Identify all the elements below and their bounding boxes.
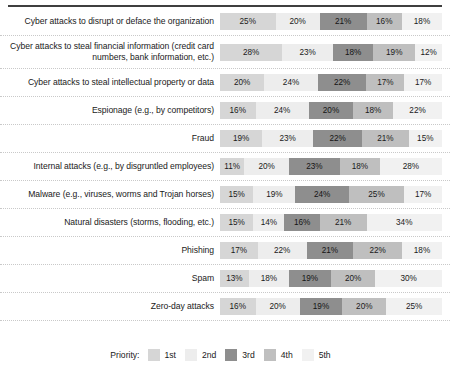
chart-legend: Priority: 1st2nd3rd4th5th [0, 349, 450, 361]
legend-item-5th[interactable]: 5th [302, 349, 331, 361]
bar-segment-4th: 21% [362, 130, 409, 147]
chart-row: Fraud19%23%22%21%15% [0, 125, 450, 153]
bar-segment-1st: 11% [220, 158, 244, 175]
bar-segment-1st: 15% [220, 214, 253, 231]
segment-value-label: 24% [274, 106, 290, 115]
bar-segment-3rd: 21% [307, 242, 354, 259]
bar-segment-4th: 19% [373, 44, 415, 61]
row-label: Zero-day attacks [8, 301, 220, 313]
bar-segment-3rd: 24% [295, 186, 348, 203]
chart-row: Internal attacks (e.g., by disgruntled e… [0, 153, 450, 181]
segment-value-label: 20% [345, 274, 361, 283]
row-label: Espionage (e.g., by competitors) [8, 105, 220, 117]
bar-segment-5th: 25% [386, 298, 442, 315]
bar-segment-5th: 17% [404, 74, 442, 91]
segment-value-label: 16% [376, 17, 392, 26]
bar-segment-2nd: 23% [282, 44, 333, 61]
bar-segment-3rd: 20% [309, 102, 353, 119]
segment-value-label: 20% [290, 17, 306, 26]
bar-segment-3rd: 19% [300, 298, 342, 315]
chart-row: Cyber attacks to disrupt or deface the o… [0, 8, 450, 36]
bar-segment-5th: 17% [404, 186, 442, 203]
bar-segment-3rd: 18% [333, 44, 373, 61]
segment-value-label: 22% [334, 78, 350, 87]
bar-segment-1st: 16% [220, 298, 256, 315]
legend-item-3rd[interactable]: 3rd [225, 349, 254, 361]
segment-value-label: 17% [231, 246, 247, 255]
legend-title: Priority: [110, 350, 139, 360]
segment-value-label: 20% [270, 302, 286, 311]
row-bar: 11%20%23%18%28% [220, 158, 442, 175]
row-label: Cyber attacks to disrupt or deface the o… [8, 16, 220, 28]
bar-segment-4th: 22% [353, 242, 402, 259]
bar-segment-4th: 20% [331, 270, 375, 287]
segment-value-label: 18% [414, 246, 430, 255]
legend-item-1st[interactable]: 1st [148, 349, 176, 361]
chart-row: Natural disasters (storms, flooding, etc… [0, 209, 450, 237]
bar-segment-2nd: 23% [262, 130, 313, 147]
bar-segment-1st: 16% [220, 102, 256, 119]
segment-value-label: 24% [283, 78, 299, 87]
legend-items: 1st2nd3rd4th5th [148, 349, 340, 361]
chart-row: Malware (e.g., viruses, worms and Trojan… [0, 181, 450, 209]
bar-segment-5th: 18% [402, 13, 442, 30]
row-label: Fraud [8, 133, 220, 145]
bar-segment-5th: 15% [409, 130, 442, 147]
chart-row: Phishing17%22%21%22%18% [0, 237, 450, 265]
segment-value-label: 20% [356, 302, 372, 311]
bar-segment-4th: 18% [353, 102, 393, 119]
bar-segment-1st: 20% [220, 74, 264, 91]
bar-segment-1st: 25% [220, 13, 276, 30]
bar-segment-1st: 17% [220, 242, 258, 259]
segment-value-label: 20% [234, 78, 250, 87]
row-bar: 25%20%21%16%18% [220, 13, 442, 30]
segment-value-label: 23% [306, 162, 322, 171]
segment-value-label: 20% [258, 162, 274, 171]
legend-item-4th[interactable]: 4th [264, 349, 293, 361]
legend-item-label: 4th [281, 350, 293, 360]
chart-row: Espionage (e.g., by competitors)16%24%20… [0, 97, 450, 125]
legend-item-2nd[interactable]: 2nd [185, 349, 216, 361]
stacked-bar-chart: Cyber attacks to disrupt or deface the o… [0, 0, 450, 367]
bar-segment-3rd: 23% [289, 158, 340, 175]
chart-rows-container: Cyber attacks to disrupt or deface the o… [0, 8, 450, 321]
bar-segment-1st: 15% [220, 186, 253, 203]
segment-value-label: 18% [345, 48, 361, 57]
legend-item-label: 2nd [202, 350, 216, 360]
row-bar: 17%22%21%22%18% [220, 242, 442, 259]
bar-segment-4th: 18% [340, 158, 380, 175]
legend-item-label: 5th [319, 350, 331, 360]
row-bar: 19%23%22%21%15% [220, 130, 442, 147]
bar-segment-2nd: 24% [264, 74, 317, 91]
segment-value-label: 21% [335, 218, 351, 227]
segment-value-label: 28% [243, 48, 259, 57]
legend-swatch-icon [185, 349, 197, 361]
segment-value-label: 16% [294, 218, 310, 227]
bar-segment-2nd: 14% [253, 214, 284, 231]
segment-value-label: 22% [369, 246, 385, 255]
bar-segment-4th: 16% [367, 13, 403, 30]
row-bar: 15%14%16%21%34% [220, 214, 442, 231]
segment-value-label: 15% [228, 218, 244, 227]
bar-segment-2nd: 24% [256, 102, 309, 119]
bar-segment-2nd: 20% [244, 158, 288, 175]
segment-value-label: 19% [233, 134, 249, 143]
chart-row: Zero-day attacks16%20%19%20%25% [0, 293, 450, 321]
bar-segment-3rd: 16% [284, 214, 320, 231]
row-bar: 16%24%20%18%22% [220, 102, 442, 119]
bar-segment-5th: 30% [375, 270, 442, 287]
chart-row: Spam13%18%19%20%30% [0, 265, 450, 293]
bar-segment-5th: 12% [415, 44, 442, 61]
segment-value-label: 17% [415, 78, 431, 87]
legend-item-label: 3rd [242, 350, 254, 360]
bar-segment-5th: 28% [380, 158, 442, 175]
bar-segment-3rd: 19% [289, 270, 331, 287]
bar-segment-2nd: 19% [253, 186, 295, 203]
segment-value-label: 18% [414, 17, 430, 26]
row-bar: 15%19%24%25%17% [220, 186, 442, 203]
segment-value-label: 18% [261, 274, 277, 283]
segment-value-label: 19% [386, 48, 402, 57]
row-label: Cyber attacks to steal financial informa… [8, 41, 220, 64]
segment-value-label: 15% [228, 190, 244, 199]
bar-segment-1st: 13% [220, 270, 249, 287]
